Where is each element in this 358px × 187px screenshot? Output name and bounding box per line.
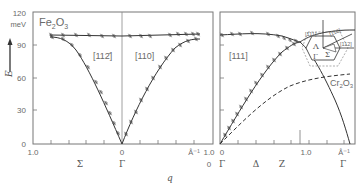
sym-z: Z bbox=[279, 159, 285, 169]
y-tick-0: 0 bbox=[22, 140, 27, 149]
svg-text:[110]: [110] bbox=[328, 27, 342, 37]
data-points-right bbox=[220, 31, 297, 137]
direction-label-111: [111] bbox=[229, 51, 248, 61]
x-tick-right-0b: 0 bbox=[207, 160, 212, 169]
direction-label-112: [112̄] bbox=[93, 51, 112, 61]
direction-label-110: [110] bbox=[135, 51, 154, 61]
svg-text:Λ: Λ bbox=[312, 42, 319, 51]
x-tick-left-end: 1.0 bbox=[203, 148, 215, 157]
y-tick-30: 30 bbox=[17, 106, 26, 115]
sym-sigma: Σ bbox=[77, 159, 83, 169]
cr2o3-label: Cr2O3 bbox=[330, 78, 354, 89]
brillouin-zone-inset: Λ Γ Σ [111] [110] [112] bbox=[302, 20, 354, 66]
x-tick-right-1: 1.0 bbox=[300, 148, 312, 157]
curve-112-optic bbox=[50, 35, 122, 36]
x-unit-left: Å⁻¹ bbox=[188, 148, 200, 157]
svg-text:[111]: [111] bbox=[305, 31, 317, 37]
y-unit-label: meV bbox=[11, 20, 26, 29]
curve-110-acoustic bbox=[122, 39, 200, 144]
svg-text:Γ: Γ bbox=[313, 53, 318, 61]
x-axis-label: q bbox=[167, 173, 173, 183]
x-tick-left-0: 0 bbox=[120, 148, 125, 157]
phonon-dispersion-figure: 120 meV 90 60 30 0 E Fe2O3 [112̄] [110] … bbox=[0, 0, 358, 187]
x-tick-left-1: 1.0 bbox=[27, 148, 39, 157]
svg-text:Σ: Σ bbox=[325, 51, 330, 59]
y-tick-60: 60 bbox=[17, 74, 26, 83]
y-tick-90: 90 bbox=[17, 41, 26, 50]
curve-110-optic bbox=[122, 34, 200, 36]
x-tick-right-0: 0 bbox=[220, 148, 225, 157]
sym-gamma-right-start: Γ bbox=[219, 159, 225, 169]
x-unit-right: Å⁻¹ bbox=[338, 148, 350, 157]
sym-gamma-right-end: Γ bbox=[340, 159, 346, 169]
sym-gamma-left: Γ bbox=[119, 159, 125, 169]
arrow-head-icon bbox=[8, 38, 13, 45]
sym-delta: Δ bbox=[253, 159, 260, 169]
data-points-left bbox=[49, 32, 199, 136]
svg-text:[112]: [112] bbox=[340, 41, 352, 47]
left-panel-frame bbox=[33, 12, 213, 144]
chart-title: Fe2O3 bbox=[39, 16, 68, 30]
y-axis-label: E bbox=[4, 70, 14, 78]
y-tick-120: 120 bbox=[13, 9, 27, 18]
